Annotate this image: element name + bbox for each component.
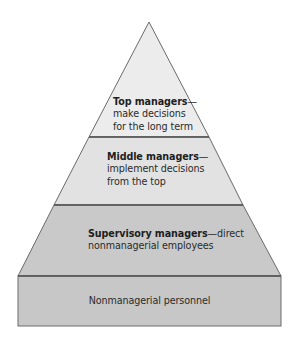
level-dash: —direct bbox=[208, 228, 244, 239]
level-description-line: for the long term bbox=[113, 121, 197, 133]
level-title-line: Middle managers— bbox=[107, 151, 208, 163]
level-title-line: Top managers— bbox=[113, 96, 197, 108]
level-title: Top managers bbox=[113, 96, 187, 107]
base-description-line: Nonmanagerial personnel bbox=[18, 295, 281, 307]
level-title: Middle managers bbox=[107, 151, 199, 162]
pyramid-base-label: Nonmanagerial personnel bbox=[18, 295, 281, 307]
level-description-line: from the top bbox=[107, 176, 208, 188]
level-dash: — bbox=[199, 151, 209, 162]
level-title-line: Supervisory managers—direct bbox=[88, 228, 244, 240]
level-dash: — bbox=[187, 96, 197, 107]
pyramid-level-middle-label: Middle managers— implement decisions fro… bbox=[107, 151, 208, 188]
level-title: Supervisory managers bbox=[88, 228, 208, 239]
level-description-line: nonmanagerial employees bbox=[88, 240, 244, 252]
level-description-line: make decisions bbox=[113, 108, 197, 120]
pyramid-level-supervisory-label: Supervisory managers—direct nonmanageria… bbox=[88, 228, 244, 253]
pyramid-level-top-label: Top managers— make decisions for the lon… bbox=[113, 96, 197, 133]
level-description-line: implement decisions bbox=[107, 163, 208, 175]
management-pyramid-diagram: Top managers— make decisions for the lon… bbox=[0, 0, 296, 351]
